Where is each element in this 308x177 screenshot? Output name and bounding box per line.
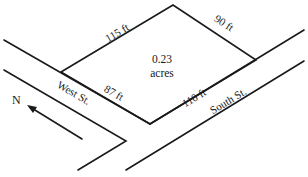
north-arrow-icon	[27, 105, 37, 113]
lot-area-unit: acres	[150, 67, 174, 79]
south-street-label: South St.	[208, 85, 249, 116]
side-length-southwest: 87 ft	[102, 82, 126, 103]
plat-diagram: N 0.23 acres 115 ft 90 ft 87 ft 110 ft W…	[0, 0, 308, 177]
side-length-northeast: 90 ft	[212, 12, 236, 33]
north-label: N	[12, 93, 21, 107]
side-length-southeast: 110 ft	[180, 86, 208, 109]
side-length-northwest: 115 ft	[103, 21, 131, 44]
lot-area-value: 0.23	[152, 53, 172, 65]
diagram-canvas: N 0.23 acres 115 ft 90 ft 87 ft 110 ft W…	[0, 0, 308, 177]
north-arrow-shaft	[30, 107, 82, 139]
